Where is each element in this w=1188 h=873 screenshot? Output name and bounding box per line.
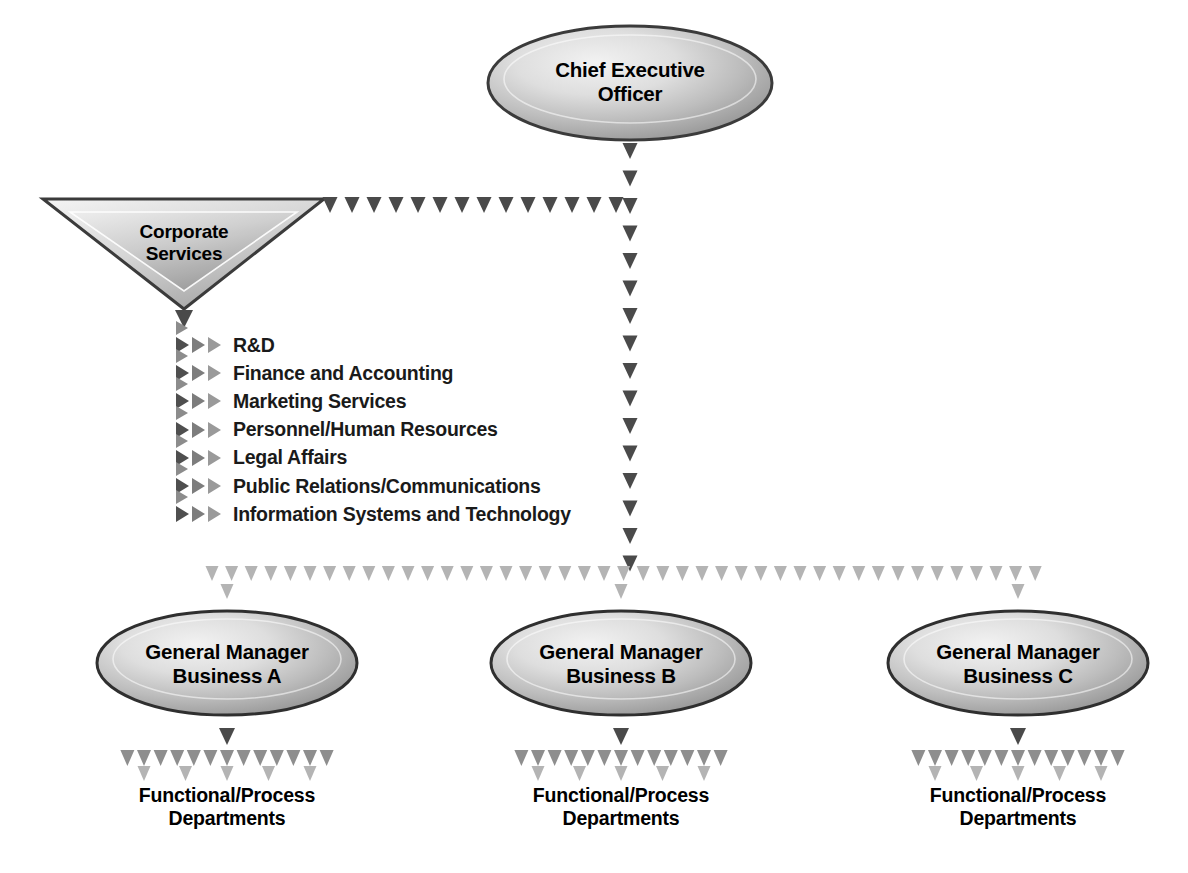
connector-gm-a-fan-dark [220,750,234,766]
connector-gm-distribution-bar [754,566,767,581]
connector-ceo-trunk [623,336,638,352]
connector-gm-c-fan-dark [1077,750,1091,766]
connector-gm-c-fan-dark [1028,750,1042,766]
connector-gm-b-fan-dark [664,750,678,766]
connector-gm-b-fan-dark [548,750,562,766]
connector-gm-b-fan-dark [697,750,711,766]
arrow-right-icon [192,450,205,466]
connector-gm-c-fan-dark [978,750,992,766]
function-list-item-label: R&D [233,334,275,357]
connector-gm-distribution-bar [833,566,846,581]
connector-gm-distribution-bar [970,566,983,581]
function-list-item-label: Finance and Accounting [233,362,453,385]
connector-gm-b-stem [613,728,629,745]
connector-gm-distribution-bar [617,566,630,581]
connector-gm-distribution-bar [598,566,611,581]
connector-bar-to-gm-b [615,584,628,599]
function-list-item[interactable]: Marketing Services [176,390,406,412]
connector-bar-to-gm-c [1012,584,1025,599]
connector-gm-c-fan-dark [1094,750,1108,766]
connector-gm-distribution-bar [460,566,473,581]
connector-gm-b-fan-dark [631,750,645,766]
function-list-item[interactable]: Personnel/Human Resources [176,419,498,441]
connector-gm-distribution-bar [284,566,297,581]
connector-gm-a-fan-light [262,766,275,781]
org-chart-canvas: Chief Executive Officer Corporate Servic… [0,0,1188,873]
connector-gm-b-fan-dark [597,750,611,766]
function-list-item[interactable]: R&D [176,334,275,356]
arrow-right-icon [208,506,221,522]
connector-gm-a-fan-dark [320,750,334,766]
function-list-item[interactable]: Public Relations/Communications [176,475,541,497]
function-list-item[interactable]: Legal Affairs [176,447,347,469]
connector-gm-b-fan-dark [564,750,578,766]
connector-gm-a-fan-dark [203,750,217,766]
function-list-item-label: Public Relations/Communications [233,475,541,498]
connector-gm-c-fan-light [1012,766,1025,781]
arrow-right-icon [176,506,189,522]
arrow-right-icon [208,450,221,466]
function-list-item[interactable]: Information Systems and Technology [176,503,571,525]
arrow-right-icon [208,393,221,409]
function-list-item-label: Information Systems and Technology [233,503,571,526]
connector-gm-distribution-bar [911,566,924,581]
connector-gm-c-fan-dark [1061,750,1075,766]
connector-gm-c-fan-dark [1011,750,1025,766]
connector-gm-a-fan-dark [286,750,300,766]
connector-gm-b-fan-dark [514,750,528,766]
function-list-separator-arrow [176,406,188,420]
arrow-right-icon [192,422,205,438]
connector-ceo-trunk [623,391,638,407]
connector-gm-a-fan-dark [170,750,184,766]
connector-ceo-trunk [623,473,638,489]
connector-gm-b-fan-light [573,766,586,781]
arrow-right-icon [192,506,205,522]
connector-ceo-trunk [623,226,638,242]
connector-gm-distribution-bar [480,566,493,581]
connector-bar-to-gm-a [221,584,234,599]
connector-gm-distribution-bar [245,566,258,581]
connector-gm-b-fan-light [698,766,711,781]
arrow-right-icon [208,422,221,438]
connector-gm-b-fan-dark [647,750,661,766]
connector-gm-distribution-bar [362,566,375,581]
connector-gm-distribution-bar [852,566,865,581]
connector-gm-a-fan-dark [237,750,251,766]
connector-gm-distribution-bar [637,566,650,581]
connector-ceo-trunk [623,253,638,269]
connector-gm-distribution-bar [343,566,356,581]
function-list-item[interactable]: Finance and Accounting [176,362,453,384]
connector-ceo-trunk [623,143,638,159]
connector-ceo-trunk [623,171,638,187]
connector-gm-distribution-bar [676,566,689,581]
connector-gm-distribution-bar [990,566,1003,581]
function-list-separator-arrow [176,434,188,448]
arrow-right-icon [192,478,205,494]
connector-gm-distribution-bar [382,566,395,581]
connector-gm-a-fan-light [179,766,192,781]
connector-gm-b-fan-dark [680,750,694,766]
connector-gm-distribution-bar [892,566,905,581]
connector-ceo-to-corporate-services [367,197,382,213]
connector-gm-distribution-bar [872,566,885,581]
connector-gm-c-fan-dark [928,750,942,766]
connector-gm-distribution-bar [735,566,748,581]
connector-ceo-trunk [623,446,638,462]
connector-gm-b-fan-dark [714,750,728,766]
arrow-right-icon [192,337,205,353]
connector-gm-c-fan-dark [1044,750,1058,766]
connector-gm-c-fan-dark [911,750,925,766]
connector-gm-distribution-bar [813,566,826,581]
function-list-separator-arrow [176,377,188,391]
connector-gm-distribution-bar [774,566,787,581]
connector-ceo-to-corporate-services [477,197,492,213]
connector-gm-distribution-bar [715,566,728,581]
connector-gm-a-fan-light [138,766,151,781]
connector-gm-a-fan-dark [187,750,201,766]
connector-gm-c-fan-dark [1111,750,1125,766]
connector-ceo-to-corporate-services [521,197,536,213]
connector-gm-b-fan-light [656,766,669,781]
function-list-separator-arrow [176,321,188,335]
connector-ceo-trunk [623,198,638,214]
connector-gm-b-fan-light [615,766,628,781]
